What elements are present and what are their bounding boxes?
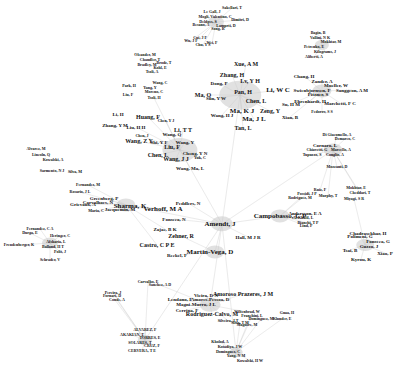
author-node-label: Huang, F [136,114,160,120]
author-node-label: Silva, M [68,170,82,174]
author-node-label: Dimitri, D [231,18,249,22]
author-node-label: Castro, C P E [140,242,175,248]
author-node-label: Cheddari, T [350,191,371,195]
author-node-label: Fornari, D [103,294,121,298]
author-node-label: Murphy, T [319,194,338,198]
author-node-label: Wang, Ma, L [176,166,204,171]
author-node-label: Jacquemin, M [105,207,136,212]
author-node-label: Gnaa, H [280,311,294,315]
author-node-label: Yuk, C [194,156,206,160]
author-node-label: Ehrenhardt, H [294,99,326,104]
author-node-label: Tan, L [235,125,252,131]
author-node-label: Rodriguez-Calvo, M [186,311,238,317]
author-node-label: Freudenberger, K [4,243,34,247]
author-node-label: Besano, A [193,23,210,27]
author-node-label: Liu, H H [126,125,145,130]
edge-layer [0,0,403,376]
author-node-label: Song, R [211,27,224,31]
author-node-label: Polit, J [54,250,66,254]
author-node-label: Tupuzzo, S [303,153,322,157]
author-node-label: Liu, F [123,93,133,97]
author-node-label: Sun, Y W [206,96,226,101]
author-node-label: Xue, A M [234,61,258,67]
author-node-label: Wang, Q [163,132,182,137]
author-node-label: Amoroso Prazeres, J M [213,291,273,297]
author-node-label: Demarco, C [335,137,355,141]
author-node-label: Liu, F [164,144,180,150]
author-node-label: Pitzner, S [308,92,328,97]
author-node-label: Reckel, F [167,253,187,258]
author-node-label: Rodriguez, M [288,196,312,200]
author-node-label: Kyrou, K [351,257,371,262]
author-node-label: Heringer, C [50,234,70,238]
author-node-label: Zeng, Y [260,108,280,114]
author-node-label: Kowalski, H W [237,359,263,363]
author-node-label: Xian, B [282,115,298,120]
author-node-label: Sakellari, T [222,6,242,10]
author-node-label: Wang, Z Y [125,138,153,144]
author-node-label: Wang, J J [163,156,189,162]
author-node-label: Sanchez, A D [149,283,171,287]
author-node-label: Zehner, R [168,233,193,239]
author-node-label: Kowalski, A [43,158,64,162]
author-node-label: Grievaux, A [70,202,96,207]
author-node-label: Chen, Y J [158,119,175,123]
author-node-label: Ma, J L [242,116,266,123]
author-node-label: Fedorov, S S [311,110,332,114]
author-node-label: Rosario, J L [70,190,91,194]
author-node-label: Li, H [112,112,123,117]
author-node-label: Mozzanti, D [327,165,348,169]
author-node-label: Dominguez, M [248,317,273,321]
author-node-label: Chen, L [246,98,267,104]
author-node-label: Verhoff, M A [143,206,182,213]
author-node-label: Amendt, J [204,221,235,228]
author-node-label: Maguire, M [237,323,257,327]
author-node-label: Dong, P [211,81,228,86]
author-node-label: Li, W C [266,87,290,94]
author-node-label: Conglio, A [326,153,344,157]
author-node-label: Marchetti, F C [324,101,356,106]
author-node-label: Hall, M J R [236,235,261,240]
author-node-label: Alvarez, M [26,147,45,151]
author-node-label: Wang, H J [211,113,234,118]
author-node-label: Xiao, P [377,251,393,256]
author-node-label: Lv, Y H [240,78,260,84]
author-node-label: Tsoli, H [147,96,160,100]
author-node-label: Lind, P [300,224,313,228]
author-node-label: Maria, C [88,209,104,213]
author-node-label: Schrader, V [40,258,60,262]
author-node-label: Sanggeon, A M [336,88,368,93]
author-node-label: Moreno, C [145,90,163,94]
author-node-label: Klunder, E [273,317,292,321]
author-node-label: Miyagi, S R [344,197,364,201]
author-node-label: Peddlers, N [176,201,201,206]
author-node-label: Fernandez, M [76,183,100,187]
author-node-label: Pan, H [234,89,252,95]
author-node-label: Guzzo, J [360,244,379,249]
author-node-label: Aliberti, A [305,55,323,59]
author-node-label: Durga, E [22,231,38,235]
network-graph: Sakellari, TLe Gall, JMogli, Valentino, … [0,0,403,376]
author-node-label: Tsai, B [343,248,358,253]
author-node-label: Conde, A [109,298,125,302]
author-node-label: Park, H [122,84,136,88]
author-node-label: Chu, Y S [195,43,210,47]
author-node-label: Tsoli, A [146,70,159,74]
author-node-label: CERVERA, T E [128,349,156,353]
author-node-label: Magni-Murro, J L [176,302,216,307]
author-node-label: Zhang, Y M [102,123,128,128]
author-node-label: Martin-Vega, D [187,249,234,256]
author-node-label: Zajac, B K [153,227,176,232]
author-node-label: Fonseca, N [162,217,185,222]
author-node-label: Campobasso, C P [254,213,307,220]
author-node-label: Sarmento, N J [40,169,65,173]
